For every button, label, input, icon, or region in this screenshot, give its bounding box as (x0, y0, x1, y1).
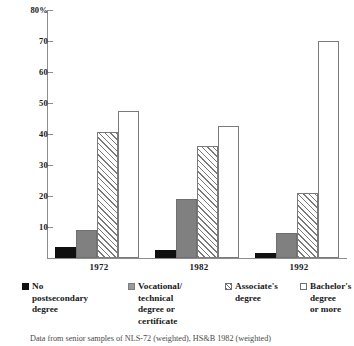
plot-area: 80% 70 60 50 40 30 20 10 (0, 0, 354, 272)
y-tick-label-80: 80% (30, 5, 48, 15)
legend-label-bachelors: Bachelor'sdegreeor more (310, 281, 351, 316)
chart-legend: Nopostsecondarydegree Vocational/technic… (0, 281, 354, 329)
chart-footnote: Data from senior samples of NLS-72 (weig… (30, 334, 350, 343)
legend-line: Vocational/ (138, 281, 182, 291)
legend-line: Bachelor's (310, 281, 351, 291)
bar-groups (47, 10, 347, 258)
bar-1972-associates (97, 132, 118, 258)
legend-item-bachelors: Bachelor'sdegreeor more (300, 281, 354, 316)
bar-group-1972 (55, 10, 143, 258)
legend-label-associates: Associate'sdegree (235, 281, 278, 304)
bar-1992-vocational (276, 233, 297, 258)
bar-1992-associates (297, 193, 318, 258)
bar-1972-vocational (76, 230, 97, 258)
legend-line: degree (310, 293, 336, 303)
legend-label-no-postsecondary: Nopostsecondarydegree (32, 281, 88, 316)
hatched-swatch-icon (225, 283, 232, 290)
legend-line: No (32, 281, 43, 291)
x-axis-line (47, 258, 347, 259)
x-label-1972: 1972 (55, 262, 143, 272)
bar-1972-no-postsecondary (55, 247, 76, 258)
bar-1982-bachelors (218, 126, 239, 258)
legend-line: degree or (138, 304, 175, 314)
bar-group-1992 (255, 10, 343, 258)
x-label-1982: 1982 (155, 262, 243, 272)
bar-1992-bachelors (318, 41, 339, 258)
bar-1982-vocational (176, 199, 197, 258)
bar-1982-no-postsecondary (155, 250, 176, 258)
legend-item-vocational: Vocational/technicaldegree orcertificate (128, 281, 206, 327)
legend-label-vocational: Vocational/technicaldegree orcertificate (138, 281, 182, 327)
legend-line: postsecondary (32, 293, 88, 303)
bar-1982-associates (197, 146, 218, 258)
bar-chart-figure: 80% 70 60 50 40 30 20 10 (0, 0, 354, 346)
bar-1972-bachelors (118, 111, 139, 258)
bar-1992-no-postsecondary (255, 253, 276, 258)
legend-line: degree (32, 304, 58, 314)
legend-item-associates: Associate'sdegree (225, 281, 295, 304)
solid-gray-swatch-icon (128, 283, 135, 290)
legend-line: certificate (138, 316, 177, 326)
legend-line: or more (310, 304, 341, 314)
bar-group-1982 (155, 10, 243, 258)
legend-line: degree (235, 293, 261, 303)
legend-line: Associate's (235, 281, 278, 291)
legend-line: technical (138, 293, 173, 303)
empty-swatch-icon (300, 283, 307, 290)
solid-black-swatch-icon (22, 283, 29, 290)
legend-item-no-postsecondary: Nopostsecondarydegree (22, 281, 102, 316)
x-label-1992: 1992 (255, 262, 343, 272)
